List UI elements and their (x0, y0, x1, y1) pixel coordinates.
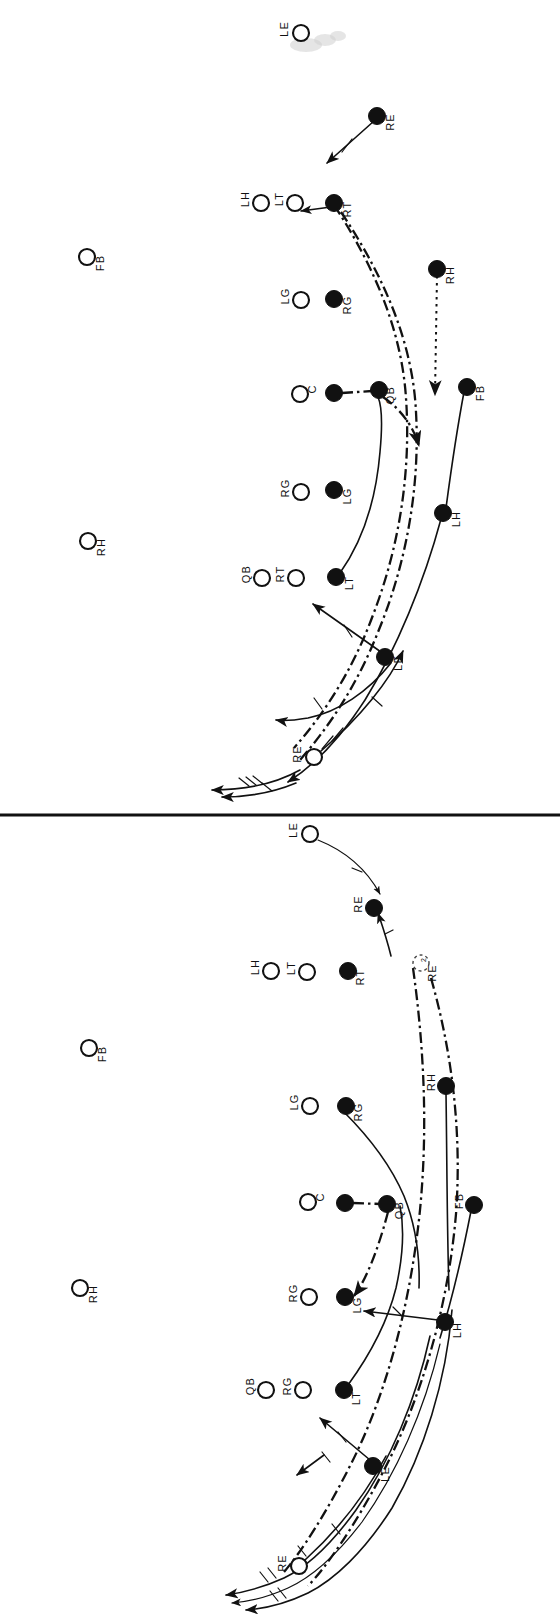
player-marker-filled (466, 1197, 483, 1214)
position-label-b-lh: LH (249, 959, 261, 975)
route-bot-le-tick (352, 868, 362, 872)
position-label-b-c: C (314, 1192, 326, 1201)
player-b-le-top: LE (287, 822, 318, 842)
route-bot-dashdot-a (284, 968, 424, 1572)
route-bot-rh-block (446, 1093, 449, 1290)
route-top-le-pursuit (313, 604, 381, 652)
player-t-lh: LH (239, 191, 269, 211)
top-panel-routes (212, 121, 464, 797)
position-label-b-le: LE (379, 1466, 391, 1482)
player-marker-open (293, 484, 309, 500)
position-label-b-re3: RE (276, 1554, 288, 1572)
position-label-b-rg: RG (352, 1103, 364, 1122)
player-b-lg2: LG (337, 1289, 363, 1314)
route-top-pursuit-b (276, 663, 391, 721)
player-b-qbsnap (337, 1195, 354, 1212)
position-label-b-lg2: LG (351, 1296, 363, 1313)
position-label-b-rt: RT (354, 969, 366, 986)
player-marker-filled (326, 385, 343, 402)
position-label-t-lg2: LG (341, 487, 353, 504)
position-label-b-lt2: LT (350, 1391, 362, 1405)
position-label-t-rt: RT (341, 201, 353, 218)
position-label-b-rh: RH (425, 1073, 437, 1091)
player-b-lt: LT (285, 961, 315, 980)
route-bot-tick-c (268, 1568, 276, 1578)
route-top-lh-carry (288, 519, 441, 782)
position-label-t-lh2: LH (450, 511, 462, 527)
player-marker-open (79, 249, 95, 265)
route-bot-qb-pitch (354, 1212, 388, 1296)
player-b-qb2: QB (244, 1377, 274, 1398)
route-bot-re-rush-tick (385, 930, 393, 934)
player-marker-open (306, 749, 322, 765)
player-t-rh-left: RH (80, 533, 107, 556)
position-label-t-rh: RH (444, 266, 456, 284)
player-t-lg2: LG (326, 482, 353, 505)
position-label-t-qb: QB (384, 386, 396, 404)
route-top-fb-lead (446, 392, 464, 508)
position-label-t-fb-left: FB (94, 255, 106, 271)
position-label-b-fb: FB (453, 1193, 465, 1209)
player-b-rh: RH (425, 1073, 455, 1095)
position-label-sup-b-re2: 2 (420, 958, 427, 962)
player-b-rt: RT (340, 963, 366, 986)
route-bot-le-tick2 (338, 1432, 346, 1442)
player-marker-open (80, 533, 96, 549)
route-top-re-rush (327, 121, 374, 163)
position-label-b-qb2: QB (244, 1377, 256, 1395)
position-label-t-rh-left: RH (95, 538, 107, 556)
player-marker-open (293, 25, 309, 41)
player-marker-filled (438, 1078, 455, 1095)
player-marker-open (72, 1280, 88, 1296)
position-label-b-qb: QB (393, 1201, 405, 1219)
route-bot-snap (353, 1203, 381, 1204)
player-marker-open (81, 1040, 97, 1056)
position-label-t-re2: RE (291, 745, 303, 763)
position-label-b-rg3: RG (281, 1377, 293, 1396)
player-b-re: RE (352, 895, 383, 916)
route-top-exit-tick2 (246, 777, 256, 785)
top-panel-players: LEFBRHRELHLTRTLGRGCQBRHFBRGLGLHQBRTLTLER… (79, 21, 486, 765)
position-label-t-lh: LH (239, 191, 251, 207)
player-marker-open (263, 963, 279, 979)
player-marker-open (295, 1382, 311, 1398)
player-t-rh: RH (429, 261, 456, 285)
route-bot-dashdot-b (308, 978, 458, 1586)
player-b-lh: LH (249, 959, 279, 979)
position-label-t-c: C (306, 384, 318, 393)
route-bot-lt-block (348, 1206, 403, 1385)
player-t-lt2: LT (328, 569, 355, 591)
player-t-le-top: LE (278, 21, 309, 41)
route-top-lt-pull (340, 397, 381, 573)
player-marker-open (291, 1558, 307, 1574)
player-b-re2: RE2 (413, 955, 438, 982)
position-label-t-le: LE (392, 655, 404, 671)
player-marker-open (293, 292, 309, 308)
player-b-c: C (300, 1192, 326, 1210)
route-top-re2-tick (372, 697, 382, 706)
position-label-b-fb-left: FB (96, 1046, 108, 1062)
player-t-c: C (292, 384, 318, 402)
player-b-lt2: LT (336, 1382, 362, 1406)
route-bot-le-pursuit2 (297, 1455, 324, 1475)
route-bot-tick-d (260, 1572, 268, 1582)
position-label-b-lh2: LH (451, 1322, 463, 1338)
position-label-t-le-top: LE (278, 21, 290, 37)
position-label-t-lt2: LT (343, 576, 355, 590)
player-b-fb: FB (453, 1193, 483, 1214)
route-bot-re-rush (378, 913, 391, 956)
position-label-t-rg: RG (341, 296, 353, 315)
player-b-rg2: RG (287, 1284, 317, 1305)
player-marker-open (254, 570, 270, 586)
position-label-t-re: RE (384, 113, 396, 131)
player-marker-open (299, 964, 315, 980)
player-b-le: LE (365, 1458, 391, 1482)
player-t-rt2: RT (274, 566, 304, 586)
position-label-b-rh-left: RH (87, 1285, 99, 1303)
player-t-fb-left: FB (79, 249, 106, 271)
route-top-rh-motion (435, 276, 437, 395)
route-top-exit-tick3 (239, 778, 249, 786)
route-top-re-tick (342, 139, 352, 152)
player-marker-open (253, 195, 269, 211)
player-b-rh-left: RH (72, 1280, 99, 1303)
